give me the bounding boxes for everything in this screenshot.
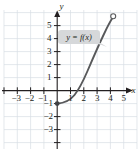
y-tick-label-5: 5 — [47, 21, 52, 30]
x-tick-label-4: 4 — [108, 94, 113, 103]
y-axis-label: y — [60, 2, 64, 11]
y-tick-label-3: 3 — [47, 47, 52, 56]
x-tick-label-5: 5 — [122, 94, 127, 103]
y-tick-label--2: −2 — [44, 112, 54, 121]
function-label: y = f(x) — [58, 30, 100, 44]
y-tick-label-1: 1 — [47, 73, 52, 82]
y-tick-label-4: 4 — [47, 34, 52, 43]
y-tick-label--1: −1 — [44, 99, 54, 108]
y-tick-label-2: 2 — [47, 60, 52, 69]
x-axis-label: x — [132, 86, 136, 95]
function-label-callout: y = f(x) — [58, 30, 100, 44]
x-tick-label-1: 1 — [68, 94, 73, 103]
coordinate-plane — [0, 0, 139, 152]
x-tick-label-2: 2 — [82, 94, 87, 103]
closed-endpoint — [55, 101, 60, 106]
graph-figure: y = f(x) −3 −2 −1 1 2 3 4 5 5 4 3 2 1 −1… — [0, 0, 139, 152]
x-tick-label--3: −3 — [11, 94, 21, 103]
y-tick-label--3: −3 — [44, 125, 54, 134]
open-endpoint — [111, 14, 116, 19]
x-tick-label-3: 3 — [95, 94, 100, 103]
x-tick-label--2: −2 — [25, 94, 35, 103]
